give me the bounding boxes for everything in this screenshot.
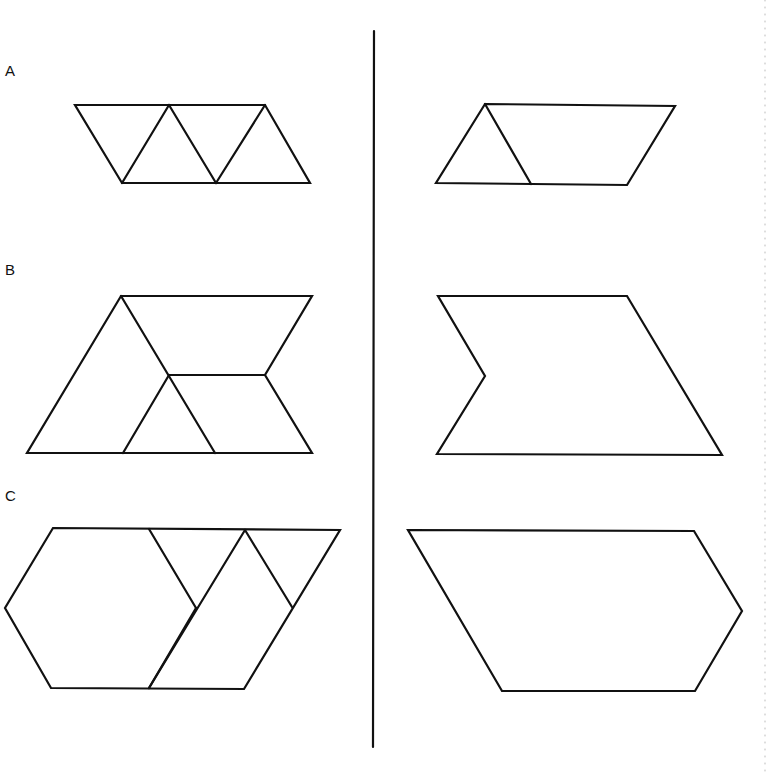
row-label-a: A <box>5 63 15 78</box>
shape-a-right-outline <box>436 104 675 185</box>
shape-b-right-outline <box>437 296 722 455</box>
shape-a-left-inner-line <box>216 105 265 183</box>
shape-a-left-inner-line <box>122 105 169 183</box>
shapes-svg <box>0 0 774 774</box>
shape-c-left-inner-line <box>245 530 292 607</box>
shape-b-left-inner-line <box>123 375 169 453</box>
shape-c-right-outline <box>408 530 742 691</box>
row-a-shapes <box>75 104 675 185</box>
row-label-c: C <box>5 488 16 503</box>
shape-c-left-inner-line <box>149 529 196 608</box>
vertical-divider <box>373 31 374 747</box>
pattern-block-diagram: A B C <box>0 0 774 774</box>
row-label-b: B <box>5 262 15 277</box>
shape-c-left-outline <box>5 528 340 689</box>
shape-a-right-inner-line <box>485 104 531 184</box>
shape-a-left-inner-line <box>169 105 216 183</box>
